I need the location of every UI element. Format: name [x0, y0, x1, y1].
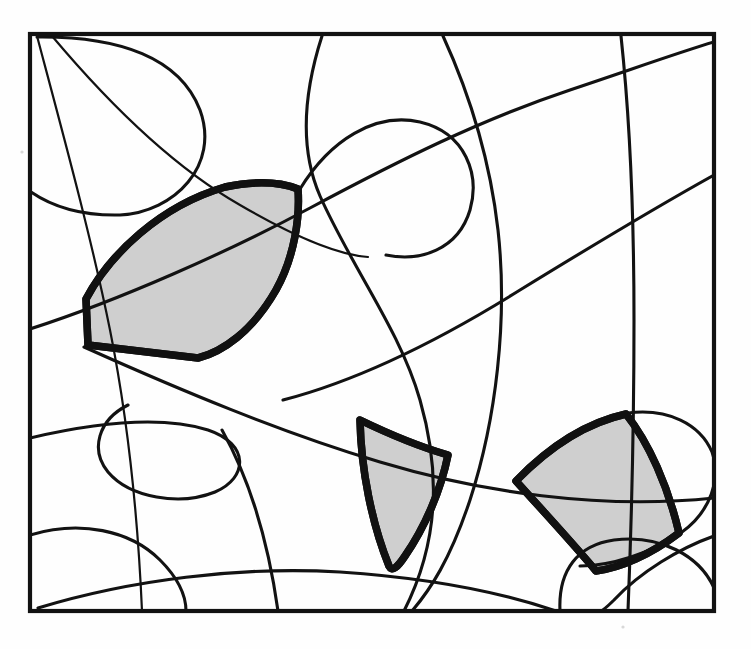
curve-arrangement-figure: Arrangement of curves in a square with t…: [0, 0, 751, 649]
figure-root: Arrangement of curves in a square with t…: [0, 0, 751, 649]
paper-speck-2: [621, 625, 624, 628]
paper-speck-1: [20, 150, 23, 153]
